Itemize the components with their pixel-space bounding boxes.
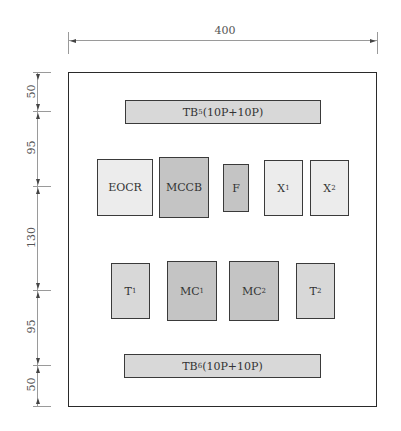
- width-label: 400: [210, 24, 240, 37]
- eocr-label: EOCR: [108, 181, 142, 194]
- component-mccb: MCCB: [159, 157, 209, 218]
- component-mc1: MC1: [167, 261, 217, 321]
- dimension-tick: [33, 186, 51, 187]
- component-fuse: F: [223, 164, 249, 212]
- mc2-label: MC: [242, 285, 262, 298]
- dimension-label-middle: 130: [25, 223, 38, 253]
- fuse-label: F: [232, 182, 240, 195]
- dimension-tick: [33, 365, 51, 366]
- t2-sub: 2: [317, 287, 321, 295]
- x2-label: X: [323, 182, 331, 195]
- width-dimension: 400: [0, 0, 401, 60]
- arrow-up-icon: [36, 188, 40, 194]
- arrow-down-icon: [36, 179, 40, 185]
- dimension-tick: [33, 406, 51, 407]
- t2-label: T: [310, 285, 317, 298]
- x2-sub: 2: [331, 184, 335, 192]
- component-eocr: EOCR: [97, 159, 153, 216]
- component-mc2: MC2: [229, 261, 279, 321]
- component-x2: X2: [310, 160, 349, 216]
- dimension-label-row2-gap: 95: [25, 312, 38, 342]
- component-x1: X1: [264, 160, 303, 216]
- tb6-name: TB: [182, 360, 197, 373]
- tb5-spec: (10P+10P): [203, 106, 264, 119]
- component-t2: T2: [296, 263, 335, 319]
- vertical-dimension-chain: 50 95 130 95 50: [0, 60, 60, 420]
- arrow-up-icon: [36, 292, 40, 298]
- mc2-sub: 2: [262, 287, 266, 295]
- arrow-down-icon: [36, 358, 40, 364]
- t1-sub: 1: [132, 287, 136, 295]
- dimension-tick: [33, 111, 51, 112]
- dimension-tick: [33, 290, 51, 291]
- dimension-label-top-margin: 50: [25, 77, 38, 107]
- tb6-spec: (10P+10P): [202, 360, 263, 373]
- arrow-up-icon: [36, 113, 40, 119]
- terminal-block-tb5: TB5(10P+10P): [125, 100, 321, 124]
- tb5-name: TB: [183, 106, 198, 119]
- arrow-right-icon: [370, 39, 376, 43]
- t1-label: T: [125, 285, 132, 298]
- component-t1: T1: [111, 263, 150, 319]
- x1-label: X: [277, 182, 285, 195]
- arrow-down-icon: [36, 283, 40, 289]
- terminal-block-tb6: TB6(10P+10P): [124, 354, 321, 378]
- arrow-left-icon: [70, 39, 76, 43]
- mc1-sub: 1: [200, 287, 204, 295]
- dimension-line: [68, 40, 378, 41]
- dimension-tick: [33, 72, 51, 73]
- dimension-label-row1-gap: 95: [25, 133, 38, 163]
- dimension-extension-left: [68, 32, 69, 54]
- mccb-label: MCCB: [166, 181, 202, 194]
- dimension-label-bottom-margin: 50: [25, 370, 38, 400]
- dimension-extension-right: [377, 32, 378, 54]
- x1-sub: 1: [285, 184, 289, 192]
- mc1-label: MC: [180, 285, 200, 298]
